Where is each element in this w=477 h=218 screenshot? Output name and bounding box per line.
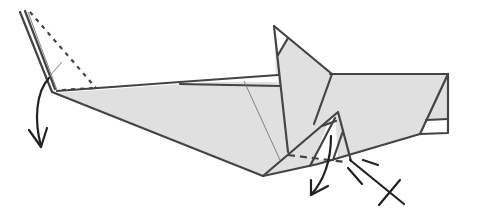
valley-fold-arrow-left xyxy=(29,78,49,147)
origami-diagram xyxy=(0,0,477,218)
paper-body xyxy=(57,26,448,176)
reference-marks xyxy=(348,160,404,205)
left-tail-flap xyxy=(20,11,96,94)
diagram-canvas xyxy=(0,0,477,218)
x-ray-cross xyxy=(379,180,400,205)
